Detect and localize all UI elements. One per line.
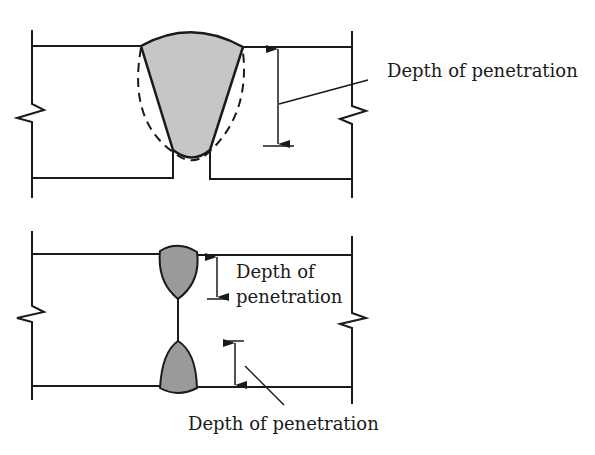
- lower-weld-bead: [160, 341, 197, 393]
- upper-weld-bead: [160, 246, 198, 299]
- bottom-figure: [17, 231, 366, 405]
- weld-bead: [141, 32, 243, 157]
- upper-depth-label-line2: penetration: [236, 286, 343, 307]
- bottom-surface-right: [210, 150, 352, 179]
- top-figure: [17, 30, 368, 198]
- leader-line: [279, 80, 368, 104]
- upper-depth-label-line1: Depth of: [236, 261, 316, 282]
- lower-depth-label: Depth of penetration: [188, 413, 379, 434]
- top-depth-label: Depth of penetration: [387, 60, 578, 81]
- left-plate-edge: [17, 30, 44, 198]
- weld-penetration-diagram: Depth of penetration Depth of penetratio…: [0, 0, 595, 455]
- left-plate-edge: [17, 231, 44, 400]
- right-plate-edge: [340, 236, 366, 404]
- bottom-surface-left: [32, 150, 173, 178]
- lower-leader-line: [245, 366, 284, 405]
- right-plate-edge: [340, 31, 366, 198]
